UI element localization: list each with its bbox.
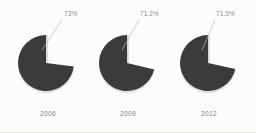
pie-value-label: 71.2%	[140, 11, 159, 17]
pie-panel-2006	[18, 20, 74, 93]
pie-slice-share	[99, 35, 154, 91]
figure-bottom-rule	[0, 132, 256, 133]
pie-slice-share	[180, 35, 235, 91]
pie-category-label: 2012	[201, 111, 217, 118]
leader-line	[42, 20, 62, 50]
pie-category-label: 2009	[120, 111, 136, 118]
pie-chart-figure: { "chart_data": { "type": "pie", "title"…	[0, 0, 256, 133]
pie-value-label: 71.5%	[216, 11, 235, 17]
leader-line	[122, 20, 139, 50]
pie-slice-share	[18, 35, 74, 91]
pie-panel-2009	[99, 20, 154, 93]
pie-panel-2012	[180, 20, 235, 93]
pie-value-label: 73%	[64, 11, 77, 17]
pie-category-label: 2006	[40, 111, 56, 118]
